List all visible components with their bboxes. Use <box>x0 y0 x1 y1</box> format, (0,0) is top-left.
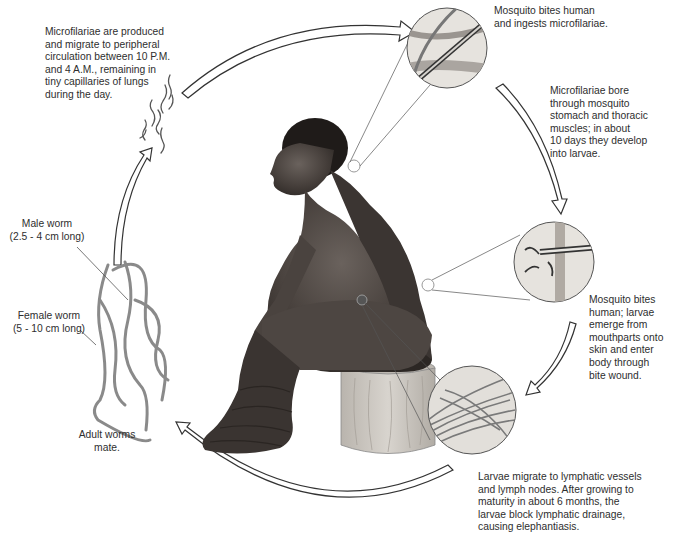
label-microfilariae-produced: Microfilariae are produced and migrate t… <box>45 26 170 102</box>
bite-site-back <box>422 279 434 291</box>
inset-larvae-emerge <box>514 220 600 310</box>
label-male-worm: Male worm (2.5 - 4 cm long) <box>4 218 90 243</box>
label-larvae-enter-body: Mosquito bites human; larvae emerge from… <box>589 294 663 382</box>
label-develop-into-larvae: Microfilariae bore through mosquito stom… <box>550 85 648 161</box>
stool <box>341 359 435 454</box>
label-lymphatic-block: Larvae migrate to lymphatic vessels and … <box>478 471 642 534</box>
cycle-arrow-top <box>182 21 415 98</box>
label-female-worm: Female worm (5 - 10 cm long) <box>6 310 92 335</box>
cycle-arrow-right-lower <box>526 322 576 395</box>
adult-worms <box>94 262 168 441</box>
inset-lymphatic-vessels <box>428 366 516 454</box>
cycle-arrow-left <box>114 148 152 265</box>
inset-mosquito-ingests <box>400 5 495 90</box>
label-mosquito-ingests: Mosquito bites human and ingests microfi… <box>494 5 608 30</box>
label-adult-worms-mate: Adult worms mate. <box>74 429 140 454</box>
